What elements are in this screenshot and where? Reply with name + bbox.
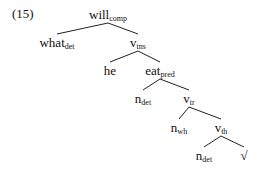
node-label: he	[104, 63, 116, 78]
tree-edge-eat-vtr	[160, 79, 189, 90]
node-label: √	[240, 148, 247, 163]
node-label: will	[89, 7, 109, 22]
tree-node-nwh: nwh	[171, 121, 187, 136]
tree-node-ndet2: ndet	[196, 149, 212, 164]
node-subscript: comp	[109, 14, 127, 23]
tree-node-he: he	[104, 64, 116, 77]
tree-node-ndet1: ndet	[135, 92, 151, 107]
tree-node-vtr: vtr	[183, 92, 194, 107]
tree-edge-vth-root	[221, 136, 244, 147]
node-label: what	[39, 35, 64, 50]
tree-edges	[0, 0, 262, 170]
tree-edge-vth-ndet2	[204, 136, 221, 147]
tree-node-eat: eatpred	[145, 64, 174, 79]
node-subscript: det	[141, 98, 151, 107]
tree-node-vtns: vtns	[130, 36, 146, 51]
tree-node-vth: vth	[215, 121, 228, 136]
tree-edge-vtns-eat	[138, 51, 160, 62]
node-subscript: det	[65, 42, 75, 51]
tree-edge-vtns-he	[110, 51, 138, 62]
node-label: eat	[145, 63, 160, 78]
tree-edge-vtr-vth	[189, 107, 221, 119]
node-subscript: tns	[137, 42, 146, 51]
tree-node-will: willcomp	[89, 8, 127, 23]
tree-edge-will-vtns	[108, 23, 138, 34]
tree-edge-will-what	[57, 23, 108, 34]
tree-node-what: whatdet	[39, 36, 74, 51]
node-subscript: tr	[190, 98, 195, 107]
node-subscript: det	[202, 155, 212, 164]
node-subscript: wh	[177, 127, 187, 136]
tree-edge-eat-ndet1	[143, 79, 160, 90]
node-subscript: pred	[160, 70, 174, 79]
tree-node-root: √	[240, 149, 247, 162]
node-subscript: th	[221, 127, 227, 136]
tree-edge-vtr-nwh	[179, 107, 189, 119]
